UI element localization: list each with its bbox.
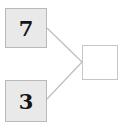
output-node[interactable] xyxy=(82,45,118,80)
edge-top-to-output xyxy=(47,28,82,62)
diagram-canvas: 7 3 xyxy=(0,0,129,122)
input-node-bottom[interactable]: 3 xyxy=(5,80,47,122)
edge-bottom-to-output xyxy=(47,62,82,99)
input-node-top-label: 7 xyxy=(19,18,34,39)
input-node-top[interactable]: 7 xyxy=(5,8,47,48)
input-node-bottom-label: 3 xyxy=(19,91,34,112)
